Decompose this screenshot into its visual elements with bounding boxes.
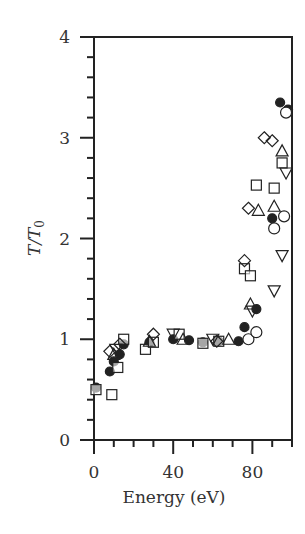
open-triangle-up-marker	[252, 204, 264, 215]
open-square-marker	[251, 180, 261, 190]
y-axis: 01234	[59, 27, 94, 450]
scatter-chart: 01234 04080 Energy (eV) T/T0	[0, 0, 305, 534]
open-triangle-up-marker	[276, 145, 288, 156]
filled-circle-marker	[268, 214, 277, 223]
open-square-marker	[91, 385, 101, 395]
y-axis-title: T/T0	[24, 220, 47, 256]
filled-circle-marker	[276, 98, 285, 107]
open-triangle-up-marker	[268, 200, 280, 211]
plot-border	[94, 37, 292, 440]
y-tick-label: 2	[59, 229, 70, 249]
open-square-marker	[269, 183, 279, 193]
open-diamond-marker	[242, 202, 254, 214]
open-square-marker	[113, 362, 123, 372]
y-tick-label: 1	[59, 329, 70, 349]
open-square-marker	[107, 390, 117, 400]
plot-frame	[94, 37, 292, 440]
open-square-marker	[277, 158, 287, 168]
x-axis: 04080	[89, 440, 292, 482]
open-triangle-up-marker	[223, 333, 235, 344]
data-points	[91, 98, 293, 400]
open-triangle-down-marker	[280, 168, 292, 179]
open-circle-marker	[269, 223, 280, 234]
open-triangle-down-marker	[276, 251, 288, 262]
y-tick-label: 4	[59, 27, 70, 47]
x-tick-label: 0	[89, 462, 100, 482]
y-tick-label: 3	[59, 128, 70, 148]
open-circle-marker	[279, 211, 290, 222]
open-triangle-down-marker	[268, 286, 280, 297]
open-circle-marker	[251, 327, 262, 338]
open-square-marker	[198, 338, 208, 348]
filled-circle-marker	[240, 323, 249, 332]
x-axis-title: Energy (eV)	[122, 487, 225, 507]
y-tick-label: 0	[59, 430, 70, 450]
open-circle-marker	[281, 107, 292, 118]
x-tick-label: 40	[162, 462, 184, 482]
open-square-marker	[245, 271, 255, 281]
x-tick-label: 80	[242, 462, 264, 482]
